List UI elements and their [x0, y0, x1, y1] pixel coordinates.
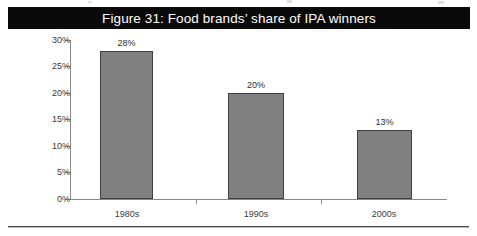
y-axis-tick-label: 20%: [26, 88, 70, 98]
scan-artifact: [438, 1, 444, 4]
x-axis-category-label: 1980s: [96, 209, 158, 220]
y-axis-line: [70, 40, 71, 199]
bar-1980s: [100, 51, 153, 199]
x-axis-tick: [196, 200, 197, 204]
bar-value-label: 20%: [228, 80, 284, 90]
bar-1990s: [228, 93, 284, 199]
y-axis-tick-label: 25%: [26, 61, 70, 71]
figure-container: Figure 31: Food brands’ share of IPA win…: [0, 0, 477, 236]
bar-2000s: [357, 130, 412, 199]
y-axis-tick-label-wrap: 20%: [0, 88, 70, 98]
y-axis-tick-label-wrap: 0%: [0, 194, 70, 204]
y-axis-tick-label: 0%: [26, 194, 70, 204]
x-axis-line: [70, 199, 447, 200]
bottom-divider-shadow: [8, 227, 469, 228]
scan-artifact: [287, 0, 292, 3]
x-axis-tick: [321, 200, 322, 204]
y-axis-tick-label-wrap: 25%: [0, 61, 70, 71]
scan-artifact: [88, 1, 92, 3]
y-axis-tick-label-wrap: 5%: [0, 167, 70, 177]
page-title: Figure 31: Food brands’ share of IPA win…: [102, 11, 376, 26]
x-axis-category-label: 1990s: [225, 209, 287, 220]
bar-value-label: 13%: [357, 117, 412, 127]
y-axis-tick-label-wrap: 15%: [0, 114, 70, 124]
x-axis-category-label: 2000s: [353, 209, 415, 220]
chart-plot-area: 30% 25% 20% 15% 10% 5% 0% 28%: [0, 29, 477, 236]
y-axis-tick-label: 5%: [26, 167, 70, 177]
y-axis-tick-label: 10%: [26, 141, 70, 151]
figure-title-banner: Figure 31: Food brands’ share of IPA win…: [8, 7, 470, 29]
y-axis-tick-label-wrap: 10%: [0, 141, 70, 151]
bar-value-label: 28%: [100, 38, 153, 48]
y-axis-tick-label: 30%: [26, 35, 70, 45]
y-axis-tick-label: 15%: [26, 114, 70, 124]
y-axis-tick-label-wrap: 30%: [0, 35, 70, 45]
